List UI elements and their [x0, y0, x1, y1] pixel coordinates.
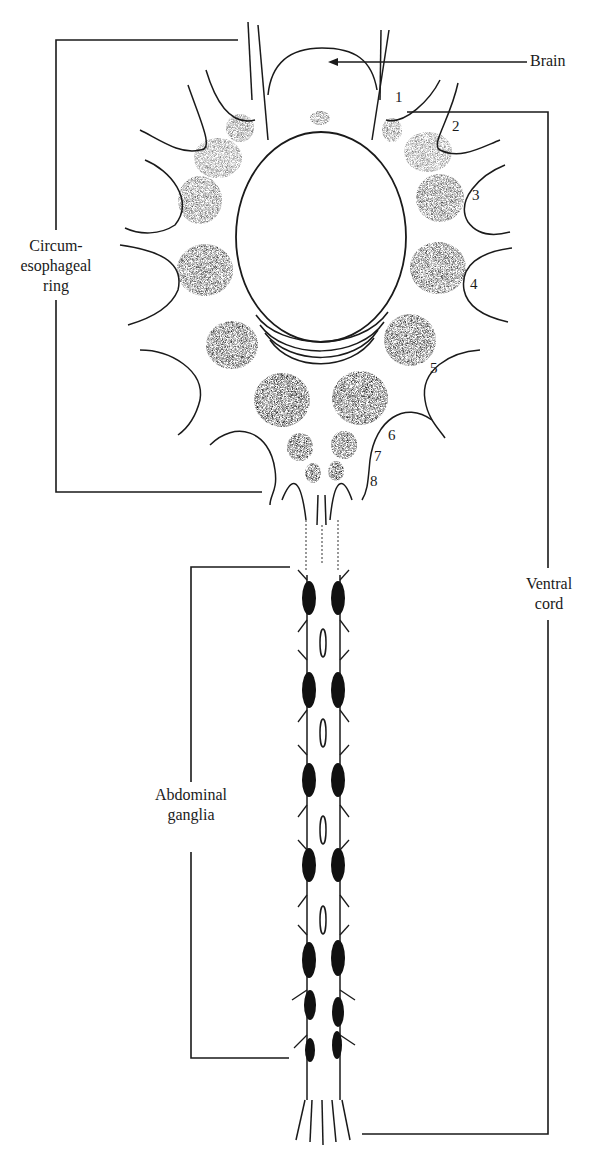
brain-arrow-head: [328, 58, 338, 66]
label-ventral-line2: cord: [514, 594, 584, 614]
abdominal-ganglia-shapes: [302, 581, 345, 1062]
label-circum-esophageal-ring: Circum- esophageal ring: [2, 236, 110, 296]
label-ventral-line1: Ventral: [514, 574, 584, 594]
label-brain: Brain: [530, 51, 566, 71]
ganglion-number-6: 6: [388, 427, 396, 443]
label-circum-line1: Circum-: [2, 236, 110, 256]
abdominal-ganglia-bracket-top: [191, 567, 290, 782]
ganglion-number-2: 2: [452, 118, 460, 134]
nervous-system-diagram: [0, 0, 594, 1150]
ganglion-number-7: 7: [374, 448, 382, 464]
abdominal-ganglia-bracket-bottom: [191, 852, 289, 1058]
ganglion-number-3: 3: [472, 187, 480, 203]
label-circum-line3: ring: [2, 276, 110, 296]
esophagus-opening: [236, 132, 406, 342]
ganglion-number-5: 5: [430, 360, 438, 376]
ganglion-number-4: 4: [470, 276, 478, 292]
ring-ganglia: [177, 111, 466, 483]
ventral-cord-bracket-bottom: [362, 620, 548, 1134]
label-abdominal-line1: Abdominal: [142, 785, 240, 805]
label-ventral-cord: Ventral cord: [514, 574, 584, 614]
brain-dome: [268, 48, 377, 95]
ganglion-number-1: 1: [395, 89, 403, 105]
bracket-lines: [56, 40, 548, 1134]
ventral-cord: [292, 570, 355, 1145]
label-abdominal-line2: ganglia: [142, 805, 240, 825]
label-abdominal-ganglia: Abdominal ganglia: [142, 785, 240, 825]
label-circum-line2: esophageal: [2, 256, 110, 276]
ganglion-number-8: 8: [370, 473, 378, 489]
connectives: [306, 520, 338, 570]
